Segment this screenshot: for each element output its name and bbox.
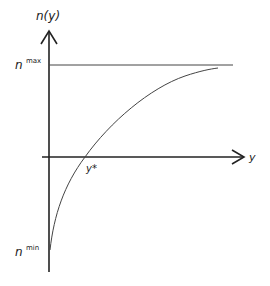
chart-canvas: n(y) n max n min y* y bbox=[0, 0, 270, 286]
nmax-label-base: n bbox=[15, 58, 23, 72]
nmin-label-sup: min bbox=[26, 244, 39, 252]
nmax-label-sup: max bbox=[26, 57, 41, 65]
nmin-label-base: n bbox=[15, 245, 23, 259]
x-axis-label: y bbox=[248, 151, 256, 164]
ny-curve bbox=[50, 68, 218, 250]
ystar-label: y* bbox=[85, 163, 97, 174]
y-axis-label: n(y) bbox=[36, 9, 60, 23]
